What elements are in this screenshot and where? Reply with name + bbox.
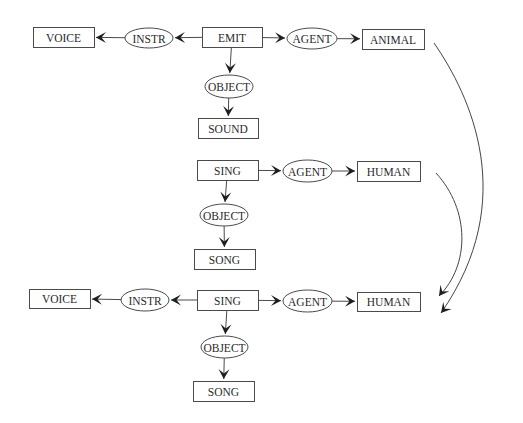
node-song-label: SONG bbox=[208, 386, 239, 398]
nodes-layer: VOICEINSTREMITAGENTANIMALOBJECTSOUNDSING… bbox=[30, 28, 425, 402]
node-agent-label: AGENT bbox=[293, 33, 332, 45]
node-human: HUMAN bbox=[358, 162, 421, 182]
node-object: OBJECT bbox=[200, 204, 248, 226]
node-sing: SING bbox=[198, 161, 259, 181]
derivation-arrow-animal-to-human-arrowhead bbox=[441, 302, 452, 313]
node-instr-label: INSTR bbox=[132, 33, 166, 45]
node-instr-label: INSTR bbox=[128, 295, 162, 307]
node-animal-label: ANIMAL bbox=[370, 34, 416, 46]
node-sing-label: SING bbox=[214, 295, 241, 307]
node-song: SONG bbox=[195, 250, 256, 270]
node-agent: AGENT bbox=[283, 290, 332, 312]
node-voice-label: VOICE bbox=[42, 293, 77, 305]
node-instr: INSTR bbox=[125, 28, 173, 48]
node-emit: EMIT bbox=[203, 28, 263, 48]
node-object: OBJECT bbox=[201, 336, 248, 358]
node-song-label: SONG bbox=[209, 254, 240, 266]
node-human: HUMAN bbox=[358, 293, 421, 312]
graph-emit: VOICEINSTREMITAGENTANIMALOBJECTSOUND bbox=[34, 28, 425, 139]
node-human-label: HUMAN bbox=[367, 296, 411, 308]
node-voice-label: VOICE bbox=[46, 32, 81, 44]
graph-sing: SINGAGENTHUMANOBJECTSONG bbox=[195, 160, 421, 270]
node-instr: INSTR bbox=[121, 289, 169, 311]
node-object: OBJECT bbox=[205, 75, 253, 98]
node-sound: SOUND bbox=[199, 119, 259, 139]
node-sing-label: SING bbox=[214, 165, 241, 177]
node-object-label: OBJECT bbox=[208, 81, 250, 93]
node-emit-label: EMIT bbox=[218, 32, 246, 44]
node-agent-label: AGENT bbox=[288, 166, 327, 178]
derivation-arrow-human-to-human bbox=[436, 173, 462, 296]
node-agent: AGENT bbox=[287, 28, 337, 49]
node-sound-label: SOUND bbox=[208, 123, 248, 135]
node-agent-label: AGENT bbox=[288, 296, 327, 308]
derivation-arrows-layer bbox=[434, 43, 483, 313]
derivation-arrow-animal-to-human bbox=[434, 43, 483, 313]
node-voice: VOICE bbox=[30, 290, 91, 309]
node-voice: VOICE bbox=[34, 28, 95, 48]
node-agent: AGENT bbox=[283, 160, 332, 182]
node-object-label: OBJECT bbox=[203, 210, 245, 222]
conceptual-graph-diagram: VOICEINSTREMITAGENTANIMALOBJECTSOUNDSING… bbox=[0, 0, 523, 423]
node-sing: SING bbox=[198, 291, 259, 311]
node-animal: ANIMAL bbox=[363, 30, 425, 50]
graph-join: VOICEINSTRSINGAGENTHUMANOBJECTSONG bbox=[30, 289, 421, 402]
node-object-label: OBJECT bbox=[203, 342, 245, 354]
node-song: SONG bbox=[194, 382, 255, 402]
node-human-label: HUMAN bbox=[367, 166, 411, 178]
